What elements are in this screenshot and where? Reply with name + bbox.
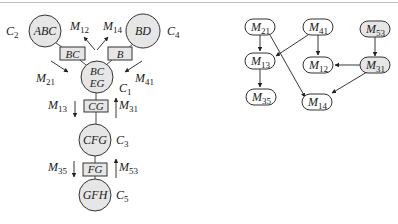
msg-M31: M31 <box>118 98 138 114</box>
dep-node-M53: M53 <box>360 21 390 38</box>
svg-text:C4: C4 <box>167 24 180 40</box>
dep-node-M21: M21 <box>245 19 275 36</box>
dep-node-M31: M31 <box>360 57 390 74</box>
cluster-C3: CFG C3 <box>79 124 129 156</box>
msg-M12: M12 <box>69 19 89 35</box>
separator-B: B <box>108 47 132 60</box>
svg-text:EG: EG <box>89 77 105 89</box>
svg-text:BC: BC <box>90 65 105 77</box>
msg-M53: M53 <box>118 160 139 176</box>
svg-text:CFG: CFG <box>83 133 107 147</box>
msg-M13: M13 <box>47 98 68 114</box>
dep-node-M12: M12 <box>303 57 333 74</box>
msg-M41: M41 <box>134 71 154 87</box>
separator-FG: FG <box>83 163 107 176</box>
cluster-C2: ABC C2 <box>6 15 61 47</box>
dep-node-M35: M35 <box>246 89 276 106</box>
svg-text:ABC: ABC <box>33 24 58 38</box>
svg-text:BC: BC <box>65 48 80 60</box>
svg-text:C5: C5 <box>116 188 129 204</box>
msg-M35: M35 <box>47 160 68 176</box>
svg-text:C3: C3 <box>116 133 129 149</box>
separator-BC: BC <box>60 47 85 60</box>
cluster-C1: BC EG C1 <box>81 61 132 97</box>
dep-node-M41: M41 <box>303 19 333 36</box>
dep-node-M13: M13 <box>245 53 275 70</box>
dep-node-M14: M14 <box>302 94 332 111</box>
junction-tree-diagram: ABC C2 BD C4 BC EG C1 CFG C3 GFH C5 BC B… <box>0 0 398 224</box>
separator-CG: CG <box>84 100 108 112</box>
cluster-C4: BD C4 <box>126 14 180 48</box>
svg-text:FG: FG <box>87 163 103 175</box>
svg-text:B: B <box>117 48 124 60</box>
svg-text:CG: CG <box>88 100 103 112</box>
svg-text:GFH: GFH <box>83 188 109 202</box>
msg-M21: M21 <box>35 71 55 87</box>
svg-text:C2: C2 <box>6 24 19 40</box>
cluster-C5: GFH C5 <box>79 179 129 211</box>
svg-text:BD: BD <box>135 24 151 38</box>
msg-M14: M14 <box>102 19 123 35</box>
svg-text:C1: C1 <box>119 81 132 97</box>
